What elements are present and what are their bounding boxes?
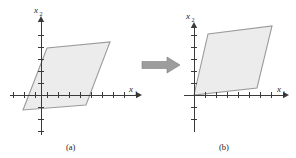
figure-container: x 1 x 2 (a) xyxy=(0,0,296,158)
panel-b-y-axis-label-main: x xyxy=(185,11,190,21)
geometry-figure: x 1 x 2 (a) xyxy=(0,0,296,158)
transformation-arrow xyxy=(142,57,180,73)
panel-a-caption: (a) xyxy=(66,142,76,152)
panel-b-x-axis-label-sub: 1 xyxy=(283,90,286,96)
panel-b-y-axis-label: x 2 xyxy=(185,11,195,23)
panel-a-x-axis-label-main: x xyxy=(128,84,133,94)
parallelogram-b xyxy=(194,26,272,95)
panel-a-x-axis-label: x 1 xyxy=(128,84,138,96)
parallelogram-a xyxy=(23,42,110,110)
panel-b-y-axis-label-sub: 2 xyxy=(192,17,195,23)
panel-b-x-axis-label-main: x xyxy=(276,84,281,94)
panel-a: x 1 x 2 (a) xyxy=(10,5,142,152)
panel-b-y-axis-arrowhead xyxy=(191,22,197,28)
panel-a-x-axis-label-sub: 1 xyxy=(135,90,138,96)
panel-b: x 1 x 2 (b) xyxy=(184,11,289,152)
panel-a-y-axis-arrowhead xyxy=(38,16,44,22)
panel-a-y-axis-label-main: x xyxy=(33,5,38,15)
panel-a-region xyxy=(23,42,110,110)
panel-b-caption: (b) xyxy=(219,142,229,152)
panel-b-region xyxy=(194,26,272,95)
panel-b-x-axis-label: x 1 xyxy=(276,84,286,96)
panel-a-y-axis-label: x 2 xyxy=(33,5,43,17)
panel-a-y-axis-label-sub: 2 xyxy=(40,11,43,17)
transformation-arrow-shape xyxy=(142,57,180,73)
